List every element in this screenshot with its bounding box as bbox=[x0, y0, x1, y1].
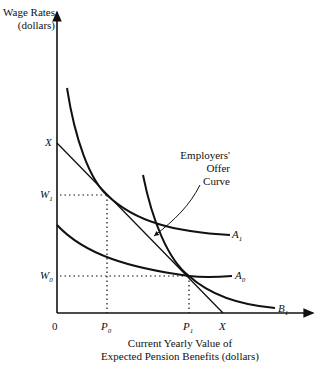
x-tick-x: X bbox=[219, 320, 226, 333]
a1-sub: 1 bbox=[239, 235, 243, 243]
label-a0: A0 bbox=[235, 269, 245, 287]
w0-letter: W bbox=[40, 269, 49, 281]
y-tick-w0: W0 bbox=[40, 269, 53, 287]
p0-sub: 0 bbox=[108, 327, 112, 335]
p1-letter: P bbox=[183, 320, 190, 332]
p0-letter: P bbox=[101, 320, 108, 332]
y-axis-label-line1: Wage Rates bbox=[0, 6, 55, 19]
w1-sub: 1 bbox=[49, 195, 53, 203]
annotation-line2: Offer bbox=[170, 162, 230, 175]
x-axis-label-line1: Current Yearly Value of bbox=[100, 337, 260, 350]
y-axis-label: Wage Rates (dollars) bbox=[0, 6, 55, 32]
label-a1: A1 bbox=[232, 228, 242, 246]
annotation-line1: Employers' bbox=[170, 149, 230, 162]
w0-sub: 0 bbox=[49, 276, 53, 284]
y-tick-w1: W1 bbox=[40, 188, 53, 206]
a1-letter: A bbox=[232, 228, 239, 240]
w1-letter: W bbox=[40, 188, 49, 200]
y-axis-label-line2: (dollars) bbox=[0, 19, 55, 32]
curve-b1 bbox=[143, 175, 275, 308]
y-tick-x: X bbox=[45, 136, 52, 149]
a0-letter: A bbox=[235, 269, 242, 281]
a0-sub: 0 bbox=[242, 276, 246, 284]
annotation-line3: Curve bbox=[170, 175, 230, 188]
annotation-employers-offer-curve: Employers' Offer Curve bbox=[170, 149, 230, 188]
x-tick-p0: P0 bbox=[101, 320, 111, 338]
x-axis-label: Current Yearly Value of Expected Pension… bbox=[100, 337, 260, 363]
x-axis-label-line2: Expected Pension Benefits (dollars) bbox=[100, 350, 260, 363]
b1-sub: 1 bbox=[285, 309, 289, 317]
p1-sub: 1 bbox=[190, 327, 194, 335]
b1-letter: B bbox=[278, 302, 285, 314]
origin-label: 0 bbox=[52, 320, 58, 333]
label-b1: B1 bbox=[278, 302, 288, 320]
x-tick-p1: P1 bbox=[183, 320, 193, 338]
